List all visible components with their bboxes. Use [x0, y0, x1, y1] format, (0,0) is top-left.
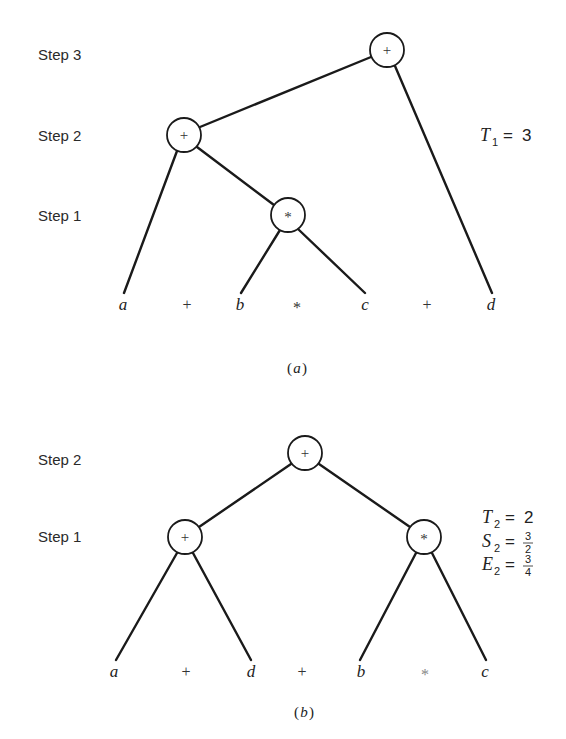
leaf-operator: + — [422, 296, 431, 313]
leaf-operator: + — [181, 663, 190, 680]
metric-t1: T 1 = 3 — [480, 125, 531, 148]
metric-t2: T 2 = 2 — [482, 507, 533, 530]
node-operator: + — [301, 445, 309, 461]
fraction-numerator: 3 — [525, 553, 531, 565]
operator-node-plus: + — [168, 520, 202, 554]
tree-edge — [395, 66, 492, 293]
operator-node-plus: + — [370, 33, 404, 67]
operator-node-multiply: * — [271, 198, 305, 232]
caption-letter: a — [293, 360, 301, 376]
caption-paren: ( — [294, 704, 299, 721]
leaf-operator: + — [297, 663, 306, 680]
tree-edge — [298, 229, 365, 293]
leaf-operand: b — [357, 662, 366, 681]
tree-edge — [199, 464, 291, 527]
leaf-operand: b — [236, 295, 245, 314]
node-operator: * — [284, 209, 292, 225]
metric-var: S — [482, 531, 491, 551]
operator-node-plus: + — [288, 436, 322, 470]
metric-subscript: 2 — [494, 542, 500, 554]
caption-b: ( b ) — [294, 704, 314, 721]
metric-e2: E 2 = 3 4 — [481, 553, 533, 578]
step-label: Step 2 — [38, 451, 81, 468]
caption-paren: ) — [309, 704, 314, 721]
step-label: Step 3 — [38, 46, 81, 63]
tree-edge — [241, 230, 280, 293]
leaf-operand: a — [110, 662, 119, 681]
tree-edge — [124, 151, 177, 293]
diagram-b: Step 2 Step 1 + + * a + d + b * c — [38, 436, 533, 721]
metric-var: T — [482, 507, 494, 527]
tree-edge — [200, 57, 371, 127]
step-label: Step 1 — [38, 207, 81, 224]
metric-s2: S 2 = 3 2 — [482, 530, 533, 555]
fraction-denominator: 4 — [525, 566, 531, 578]
metric-subscript: 1 — [492, 136, 498, 148]
caption-letter: b — [300, 704, 308, 720]
metric-subscript: 2 — [494, 565, 500, 577]
tree-edge — [116, 553, 177, 660]
tree-edge — [193, 553, 251, 660]
diagram-a: Step 3 Step 2 Step 1 + + * a + b * c + d — [38, 33, 531, 377]
metric-equals: = — [503, 126, 513, 145]
tree-edge — [197, 147, 274, 205]
metric-value: 2 — [524, 508, 533, 527]
node-operator: + — [383, 42, 391, 58]
node-operator: + — [181, 529, 189, 545]
metric-value: 3 — [522, 126, 531, 145]
caption-paren: ( — [287, 360, 292, 377]
leaf-operator: * — [293, 299, 301, 316]
metric-subscript: 2 — [494, 518, 500, 530]
metric-equals: = — [505, 532, 515, 551]
fraction-numerator: 3 — [525, 530, 531, 542]
leaf-operand: c — [361, 295, 369, 314]
leaf-operator: + — [182, 296, 191, 313]
step-label: Step 1 — [38, 528, 81, 545]
tree-edge — [432, 553, 486, 660]
metric-var: T — [480, 125, 492, 145]
tree-edge — [319, 464, 410, 527]
operator-node-multiply: * — [407, 520, 441, 554]
tree-edge — [360, 553, 416, 660]
expression-tree-figure: Step 3 Step 2 Step 1 + + * a + b * c + d — [0, 0, 566, 739]
leaf-operand: c — [481, 662, 489, 681]
caption-paren: ) — [302, 360, 307, 377]
leaf-operand: d — [247, 662, 256, 681]
metric-equals: = — [505, 508, 515, 527]
metric-var: E — [481, 554, 493, 574]
node-operator: + — [180, 127, 188, 143]
operator-node-plus: + — [167, 118, 201, 152]
leaf-operator: * — [421, 666, 429, 683]
caption-a: ( a ) — [287, 360, 307, 377]
leaf-operand: a — [119, 295, 128, 314]
node-operator: * — [420, 531, 428, 547]
metric-equals: = — [505, 555, 515, 574]
leaf-operand: d — [487, 295, 496, 314]
step-label: Step 2 — [38, 127, 81, 144]
